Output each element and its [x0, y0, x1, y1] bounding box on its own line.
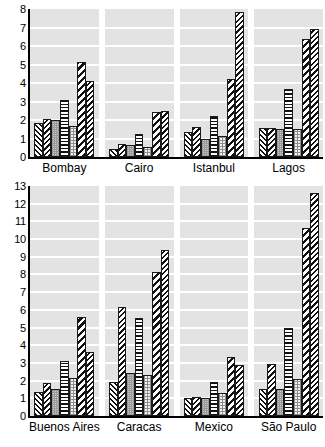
x-axis-tick-label: Caracas [117, 421, 162, 434]
y-axis-tick-label: 13 [14, 181, 26, 192]
bar [60, 361, 69, 416]
y-axis-tick-label: 5 [20, 59, 26, 70]
bar [284, 328, 293, 416]
bar [184, 132, 193, 157]
bar [152, 272, 161, 416]
bar [77, 317, 86, 416]
plot-area-bottom [30, 186, 323, 416]
bar [86, 81, 95, 157]
bar-group-são-paulo [254, 186, 323, 416]
bar [51, 120, 60, 157]
bar [43, 119, 52, 157]
chart-panel-bottom: 012345678910111213 Buenos AiresCaracasMe… [0, 180, 325, 447]
y-axis-top: 012345678 [0, 0, 30, 180]
y-axis-tick-label: 4 [20, 78, 26, 89]
bar [310, 193, 319, 416]
bar [259, 128, 268, 157]
y-axis-tick-label: 10 [14, 234, 26, 245]
y-axis-tick-label: 8 [20, 269, 26, 280]
bar [235, 12, 244, 157]
y-axis-tick-label: 7 [20, 22, 26, 33]
x-axis-line-top [28, 157, 323, 159]
bar-group-istanbul [180, 9, 249, 157]
bar [293, 129, 302, 157]
bar [126, 145, 135, 157]
x-axis-tick-label: Cairo [125, 162, 154, 175]
bar [135, 318, 144, 416]
bar [302, 228, 311, 416]
y-axis-tick-label: 5 [20, 322, 26, 333]
bar-group-caracas [105, 186, 174, 416]
x-axis-tick-label: Mexico [195, 421, 233, 434]
y-axis-tick-label: 6 [20, 41, 26, 52]
bar [118, 144, 127, 157]
bar-group-bombay [30, 9, 99, 157]
bar-group-buenos-aires [30, 186, 99, 416]
bar [227, 79, 236, 157]
y-axis-tick-label: 1 [20, 133, 26, 144]
y-axis-tick-label: 7 [20, 287, 26, 298]
y-axis-tick-label: 2 [20, 115, 26, 126]
bar [109, 149, 118, 157]
bar [51, 389, 60, 416]
bar [284, 89, 293, 157]
bar [143, 375, 152, 416]
bar [184, 398, 193, 416]
y-axis-tick-label: 3 [20, 96, 26, 107]
bar [210, 116, 219, 157]
chart-panel-top: 012345678 BombayCairoIstanbulLagos [0, 0, 325, 180]
bar [227, 357, 236, 416]
bar-group-lagos [254, 9, 323, 157]
y-axis-tick-label: 1 [20, 393, 26, 404]
bar [161, 250, 170, 416]
bar [276, 389, 285, 416]
bar [218, 136, 227, 157]
x-axis-tick-label: Bombay [42, 162, 86, 175]
bar [201, 398, 210, 416]
bar [218, 393, 227, 416]
x-axis-tick-label: São Paulo [261, 421, 316, 434]
bar [310, 29, 319, 157]
bar [201, 139, 210, 158]
y-axis-tick-label: 11 [15, 216, 26, 227]
bar [143, 147, 152, 157]
bar-group-mexico [180, 186, 249, 416]
y-axis-tick-label: 12 [14, 198, 26, 209]
bar [86, 352, 95, 416]
bar [302, 39, 311, 157]
bar [267, 364, 276, 416]
bar [118, 307, 127, 416]
bar [109, 382, 118, 416]
bar [34, 392, 43, 416]
bar-group-cairo [105, 9, 174, 157]
x-axis-line-bottom [28, 416, 323, 418]
bar [293, 379, 302, 416]
y-axis-tick-label: 4 [20, 340, 26, 351]
bar [77, 62, 86, 157]
y-axis-tick-label: 0 [20, 152, 26, 163]
bar [69, 378, 78, 416]
y-axis-tick-label: 8 [20, 4, 26, 15]
x-axis-tick-label: Buenos Aires [29, 421, 100, 434]
bar [43, 383, 52, 416]
x-axis-tick-label: Istanbul [193, 162, 235, 175]
bar [152, 112, 161, 157]
x-axis-tick-label: Lagos [272, 162, 305, 175]
y-axis-tick-label: 3 [20, 357, 26, 368]
bar [161, 111, 170, 157]
y-axis-bottom: 012345678910111213 [0, 180, 30, 447]
bar [276, 129, 285, 157]
y-axis-tick-label: 2 [20, 375, 26, 386]
bar [34, 123, 43, 157]
bar [210, 382, 219, 416]
y-axis-tick-label: 0 [20, 411, 26, 422]
bar [235, 365, 244, 416]
bar [192, 397, 201, 416]
bar [192, 127, 201, 157]
bar [60, 100, 69, 157]
y-axis-tick-label: 6 [20, 304, 26, 315]
plot-area-top [30, 9, 323, 157]
bar [126, 373, 135, 416]
y-axis-tick-label: 9 [20, 251, 26, 262]
bar [135, 134, 144, 157]
